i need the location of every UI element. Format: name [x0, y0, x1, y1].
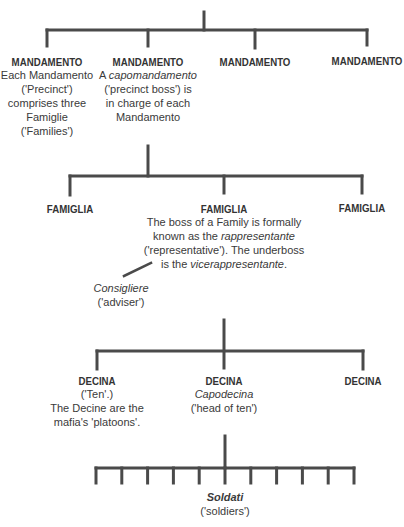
soldati-translation: ('soldiers') — [200, 504, 249, 518]
decina-2: DECINA Capodecina('head of ten') — [191, 375, 258, 415]
soldati-title: Soldati — [200, 490, 249, 504]
description-line: The boss of a Family is formally — [144, 215, 305, 229]
mandamento-title: MANDAMENTO — [6, 56, 87, 68]
description-line: ('head of ten') — [191, 401, 258, 415]
description-line: A capomandamento — [99, 68, 197, 82]
description-line: Capodecina — [191, 387, 258, 401]
decina-description: ('Ten'.)The Decine are themafia's 'plato… — [50, 387, 144, 429]
description-line: ('Ten'.) — [50, 387, 144, 401]
description-line: mafia's 'platoons'. — [50, 415, 144, 429]
mandamento-4: MANDAMENTO — [327, 55, 404, 67]
decina-1: DECINA ('Ten'.)The Decine are themafia's… — [50, 375, 144, 429]
famiglia-title: FAMIGLIA — [47, 203, 93, 215]
famiglia-1: FAMIGLIA — [44, 203, 97, 215]
decina-3: DECINA — [342, 375, 384, 387]
famiglia-title: FAMIGLIA — [153, 203, 294, 215]
description-line: ('precinct boss') is — [99, 82, 197, 96]
soldati: Soldati ('soldiers') — [200, 490, 249, 518]
capodecina-description: Capodecina('head of ten') — [191, 387, 258, 415]
famiglia-2: FAMIGLIA The boss of a Family is formall… — [144, 203, 305, 271]
description-line: in charge of each — [99, 96, 197, 110]
description-line: is the vicerappresentante. — [144, 257, 305, 271]
description-line: Famiglie — [1, 110, 93, 124]
description-line: The Decine are the — [50, 401, 144, 415]
mandamento-1: MANDAMENTO Each Mandamento('Precinct')co… — [1, 56, 93, 138]
mandamento-2: MANDAMENTO A capomandamento('precinct bo… — [99, 56, 197, 124]
description-line: known as the rappresentante — [144, 229, 305, 243]
mandamento-3: MANDAMENTO — [215, 56, 295, 68]
mandamento-title: MANDAMENTO — [105, 56, 191, 68]
consigliere-translation: ('adviser') — [93, 295, 148, 309]
decina-title: DECINA — [195, 375, 254, 387]
famiglia-3: FAMIGLIA — [336, 202, 389, 214]
consigliere-title: Consigliere — [93, 281, 148, 295]
description-line: Each Mandamento — [1, 68, 93, 82]
mandamento-title: MANDAMENTO — [220, 56, 291, 68]
famiglia-description: The boss of a Family is formallyknown as… — [144, 215, 305, 271]
description-line: ('representative'). The underboss — [144, 243, 305, 257]
decina-title: DECINA — [56, 375, 138, 387]
mandamento-description: Each Mandamento('Precinct')comprises thr… — [1, 68, 93, 138]
description-line: Mandamento — [99, 110, 197, 124]
consigliere: Consigliere ('adviser') — [93, 281, 148, 309]
mandamento-title: MANDAMENTO — [332, 55, 403, 67]
description-line: ('Families') — [1, 124, 93, 138]
description-line: ('Precinct') — [1, 82, 93, 96]
description-line: comprises three — [1, 96, 93, 110]
famiglia-title: FAMIGLIA — [339, 202, 385, 214]
capomandamento-description: A capomandamento('precinct boss') isin c… — [99, 68, 197, 124]
decina-title: DECINA — [344, 375, 381, 387]
